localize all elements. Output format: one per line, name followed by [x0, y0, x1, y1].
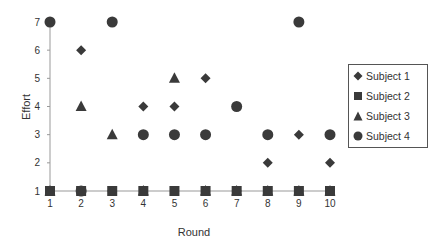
y-tick-label: 4 — [34, 101, 40, 112]
legend-item-subject-3: Subject 3 — [353, 107, 410, 125]
circle-marker — [262, 129, 273, 140]
square-marker — [169, 186, 179, 196]
circle-marker — [138, 129, 149, 140]
legend-label: Subject 1 — [366, 70, 410, 82]
circle-marker — [325, 129, 336, 140]
axes: 123456712345678910 — [34, 17, 336, 210]
diamond-marker — [169, 102, 179, 112]
legend-item-subject-1: Subject 1 — [353, 67, 410, 85]
circle-marker — [200, 129, 211, 140]
legend: Subject 1 Subject 2 Subject 3 Subject 4 — [348, 64, 428, 148]
circle-marker — [169, 129, 180, 140]
square-icon — [353, 91, 363, 101]
x-tick-label: 4 — [141, 198, 147, 209]
x-tick-label: 5 — [172, 198, 178, 209]
y-tick-label: 7 — [34, 17, 40, 28]
circle-marker — [107, 17, 118, 28]
diamond-marker — [325, 158, 335, 168]
legend-label: Subject 2 — [366, 90, 410, 102]
y-tick-label: 6 — [34, 45, 40, 56]
diamond-marker — [201, 73, 211, 83]
legend-item-subject-4: Subject 4 — [353, 127, 410, 145]
triangle-marker — [169, 72, 180, 83]
y-tick-label: 5 — [34, 73, 40, 84]
diamond-marker — [76, 45, 86, 55]
y-axis-label: Effort — [20, 94, 32, 120]
x-tick-label: 1 — [47, 198, 53, 209]
data-points — [45, 17, 336, 197]
diamond-icon — [353, 71, 363, 81]
circle-icon — [353, 131, 363, 141]
triangle-marker — [76, 101, 87, 112]
circle-marker — [231, 101, 242, 112]
x-tick-label: 9 — [296, 198, 302, 209]
legend-label: Subject 3 — [366, 110, 410, 122]
y-tick-label: 2 — [34, 157, 40, 168]
legend-label: Subject 4 — [366, 130, 410, 142]
x-tick-label: 2 — [78, 198, 84, 209]
triangle-icon — [353, 111, 363, 121]
diamond-marker — [294, 130, 304, 140]
legend-item-subject-2: Subject 2 — [353, 87, 410, 105]
diamond-marker — [263, 158, 273, 168]
x-tick-label: 7 — [234, 198, 240, 209]
y-tick-label: 3 — [34, 129, 40, 140]
circle-marker — [293, 17, 304, 28]
triangle-marker — [107, 129, 118, 140]
diamond-marker — [138, 102, 148, 112]
circle-marker — [76, 186, 87, 197]
x-tick-label: 10 — [324, 198, 336, 209]
x-axis-label: Round — [178, 226, 210, 238]
x-tick-label: 6 — [203, 198, 209, 209]
x-tick-label: 3 — [109, 198, 115, 209]
x-tick-label: 8 — [265, 198, 271, 209]
y-tick-label: 1 — [34, 186, 40, 197]
